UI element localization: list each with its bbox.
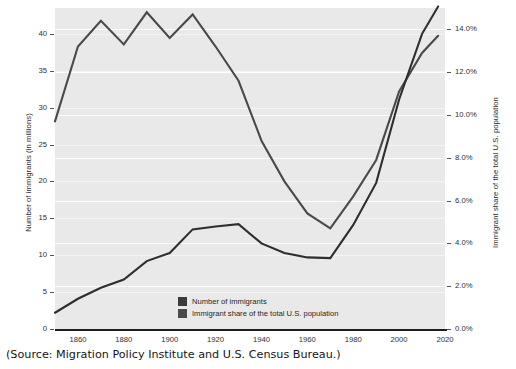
legend-item: Number of immigrants	[178, 297, 338, 306]
immigration-chart-figure: Number of immigrants (in millions) Immig…	[0, 0, 516, 369]
source-note: (Source: Migration Policy Institute and …	[6, 348, 341, 361]
legend-label: Immigrant share of the total U.S. popula…	[192, 309, 338, 318]
legend-swatch	[178, 309, 187, 318]
legend-swatch	[178, 297, 187, 306]
line-immigrant-share	[55, 12, 438, 228]
legend-item: Immigrant share of the total U.S. popula…	[178, 309, 338, 318]
chart-legend: Number of immigrantsImmigrant share of t…	[178, 297, 338, 318]
line-number-of-immigrants	[55, 7, 438, 313]
legend-label: Number of immigrants	[192, 297, 267, 306]
